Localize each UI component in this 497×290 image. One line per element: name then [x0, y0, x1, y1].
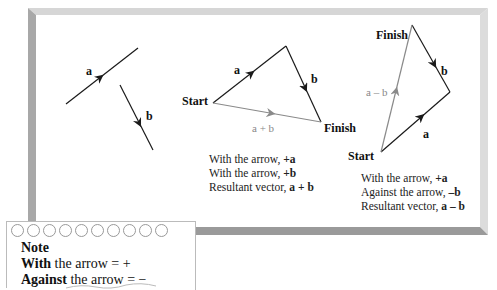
- vector-a-line: [66, 48, 138, 104]
- binder-hole-icon: [91, 224, 104, 237]
- p3-label-a: a: [423, 127, 429, 141]
- frame-top: [28, 8, 488, 15]
- note-line: With the arrow = +: [21, 256, 146, 272]
- p3-caption: With the arrow, +a Against the arrow, –b…: [361, 171, 465, 213]
- binder-hole-icon: [139, 224, 152, 237]
- p2-resultant-line: [213, 103, 321, 122]
- panel1-vectors: [66, 48, 153, 150]
- p2-vector-a-line: [213, 46, 286, 103]
- p2-label-a: a: [234, 63, 240, 77]
- note-binder-holes: [11, 224, 168, 238]
- note-text: Note With the arrow = + Against the arro…: [21, 240, 146, 288]
- note-card: Note With the arrow = + Against the arro…: [6, 221, 196, 290]
- frame-left: [28, 8, 36, 235]
- p1-label-b: b: [146, 109, 153, 123]
- p2-caption-line: With the arrow, +b: [209, 166, 314, 180]
- p2-start-label: Start: [182, 94, 208, 108]
- note-title: Note: [21, 240, 146, 256]
- binder-hole-icon: [11, 224, 24, 237]
- p2-resultant-label: a + b: [252, 121, 274, 135]
- p2-caption: With the arrow, +a With the arrow, +b Re…: [209, 152, 314, 194]
- p2-caption-line: With the arrow, +a: [209, 152, 314, 166]
- p3-resultant-label: a – b: [366, 85, 387, 99]
- binder-hole-icon: [107, 224, 120, 237]
- binder-hole-icon: [27, 224, 40, 237]
- p3-caption-line: With the arrow, +a: [361, 171, 465, 185]
- p3-finish-label: Finish: [376, 28, 408, 42]
- frame-right: [480, 8, 488, 235]
- p3-vector-a-line: [381, 92, 450, 152]
- p1-label-a: a: [86, 64, 92, 78]
- p3-label-b: b: [441, 64, 448, 78]
- p2-label-b: b: [311, 72, 318, 86]
- binder-hole-icon: [75, 224, 88, 237]
- p3-caption-line: Resultant vector, a – b: [361, 199, 465, 213]
- binder-hole-icon: [155, 224, 168, 237]
- vector-addition-figure: a b a b Start Finish a + b With the arro…: [0, 0, 497, 290]
- binder-hole-icon: [123, 224, 136, 237]
- p3-start-label: Start: [348, 149, 374, 163]
- binder-hole-icon: [43, 224, 56, 237]
- p3-vector-b-line: [412, 25, 450, 92]
- note-torn-edge: [6, 282, 196, 290]
- panel3-triangle: [381, 25, 450, 152]
- binder-hole-icon: [59, 224, 72, 237]
- p3-caption-line: Against the arrow, –b: [361, 185, 465, 199]
- panel2-triangle: [213, 46, 321, 122]
- p2-finish-label: Finish: [324, 121, 356, 135]
- p2-caption-line: Resultant vector, a + b: [209, 180, 314, 194]
